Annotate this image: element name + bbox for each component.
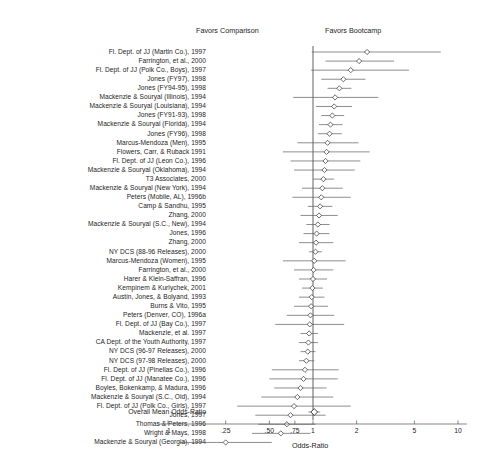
forest-row	[292, 195, 350, 200]
forest-plot-svg	[0, 0, 484, 468]
forest-row	[299, 340, 318, 345]
forest-row	[261, 394, 333, 399]
x-axis-tick-label: 2	[355, 427, 359, 434]
forest-row	[299, 295, 325, 300]
x-axis-tick-label: .50	[265, 427, 274, 434]
forest-row	[302, 186, 343, 191]
x-axis-tick-label: 1	[311, 427, 315, 434]
forest-row	[326, 58, 394, 63]
forest-row	[275, 322, 344, 327]
favors-comparison-note: Favors Comparison	[196, 26, 259, 35]
forest-row	[302, 285, 323, 290]
forest-row	[294, 304, 328, 309]
forest-row	[294, 267, 333, 272]
forest-row	[304, 231, 330, 236]
forest-row	[299, 358, 314, 363]
forest-row	[179, 440, 271, 445]
favors-bootcamp-note: Favors Bootcamp	[325, 26, 381, 35]
forest-row	[321, 77, 365, 82]
x-axis-title: Odds-Ratio	[292, 441, 328, 450]
x-axis-tick-label: 5	[412, 427, 416, 434]
summary-row	[308, 409, 320, 416]
forest-row	[287, 313, 334, 318]
forest-row	[299, 240, 333, 245]
forest-row	[321, 113, 344, 118]
x-axis-tick-label: .75	[290, 427, 299, 434]
forest-row	[294, 167, 355, 172]
x-axis-tick-label: .1	[165, 427, 171, 434]
forest-row	[237, 404, 351, 409]
forest-row	[293, 95, 378, 100]
forest-row	[301, 331, 318, 336]
forest-row	[313, 177, 334, 182]
forest-row	[291, 158, 361, 163]
x-axis-tick-label: 10	[454, 427, 462, 434]
forest-row	[274, 385, 326, 390]
forest-row	[283, 258, 346, 263]
forest-row	[299, 276, 327, 281]
forest-plot-figure: Fl. Dept. of JJ (Martin Co.), 1997Farrin…	[0, 0, 484, 468]
forest-row	[306, 222, 329, 227]
plot-area	[0, 0, 484, 468]
forest-row	[269, 376, 337, 381]
forest-row	[316, 104, 352, 109]
forest-row	[318, 131, 342, 136]
forest-row	[328, 86, 352, 91]
forest-row	[252, 431, 310, 436]
forest-row	[283, 149, 370, 154]
forest-row	[311, 68, 409, 73]
forest-row	[272, 367, 339, 372]
forest-row	[309, 249, 322, 254]
forest-row	[301, 213, 338, 218]
forest-row	[308, 204, 333, 209]
forest-row	[319, 122, 343, 127]
x-axis-tick-label: .25	[221, 427, 230, 434]
forest-row	[297, 140, 358, 145]
forest-row	[312, 49, 441, 54]
